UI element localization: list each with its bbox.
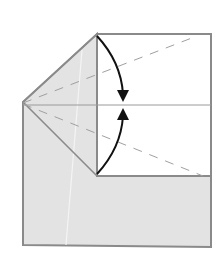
origami-diagram — [0, 0, 218, 272]
